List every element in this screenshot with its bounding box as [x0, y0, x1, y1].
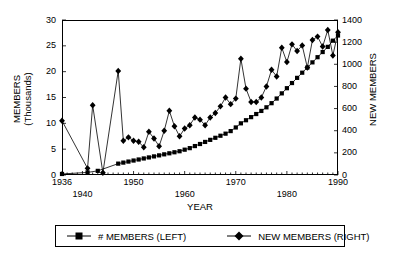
chart-figure: MEMBERS (Thousands) NEW MEMBERS YEAR 051… — [0, 0, 400, 260]
chart-legend: # MEMBERS (LEFT) NEW MEMBERS (RIGHT) — [55, 225, 345, 247]
legend-key-diamond-icon — [226, 231, 252, 241]
legend-label-members: # MEMBERS (LEFT) — [98, 231, 186, 242]
legend-label-new-members: NEW MEMBERS (RIGHT) — [258, 231, 369, 242]
chart-canvas — [0, 0, 400, 260]
legend-item-new-members: NEW MEMBERS (RIGHT) — [226, 231, 369, 242]
legend-item-members: # MEMBERS (LEFT) — [66, 231, 186, 242]
legend-key-square-icon — [66, 231, 92, 241]
